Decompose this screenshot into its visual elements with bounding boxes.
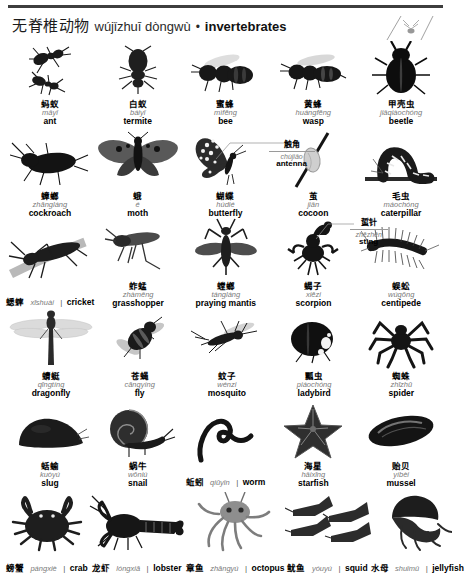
table-row: 螃蟹 pángxiè | crab [6,489,445,575]
entry-english: ant [41,117,59,127]
entry-praying-mantis[interactable]: 螳螂 tángláng praying mantis [182,217,270,309]
entry-separator: | [236,478,238,487]
header-separator: • [196,20,200,34]
entry-english: lobster [153,563,181,573]
entry-english: fly [124,389,154,399]
jellyfish-icon [371,492,464,554]
entry-pinyin: pángxiè [30,564,56,573]
entry-scorpion[interactable]: 蝎子 xiēzi scorpion 蜇针 zhēzhēn sting [270,217,358,309]
praying-mantis-icon [182,217,270,279]
entry-butterfly[interactable]: 蝴蝶 húdié butterfly 触角 chùjiǎo antenna [182,131,270,219]
entry-caption: 水母 shuǐmǔ | jellyfish [371,557,464,575]
callout-chinese: 蜇针 [344,219,394,228]
entry-english: wasp [296,117,331,127]
entry-chinese: 龙虾 [92,563,110,573]
crab-icon [6,492,88,554]
entry-fly[interactable]: 苍蝇 cāngyíng fly [96,307,183,399]
entry-mussel[interactable]: 贻贝 yíbèi mussel [357,401,445,489]
entry-english: beetle [380,117,422,127]
dragonfly-icon [6,307,96,369]
entry-ant[interactable]: 蚂蚁 mǎyǐ ant [6,45,94,127]
termite-icon [94,45,182,97]
entry-octopus[interactable]: 章鱼 zhāngyú | octopus [186,492,285,575]
entry-separator: | [245,564,247,573]
entry-crab[interactable]: 螃蟹 pángxiè | crab [6,492,88,575]
entry-caption: 蛞蝓 kuòyú slug [40,462,60,489]
entry-ladybird[interactable]: 瓢虫 piáochóng ladybird [271,307,358,399]
entry-caterpillar[interactable]: 毛虫 máochóng caterpillar [357,131,445,219]
entry-caption: 蛾 é moth [127,192,148,219]
entry-english: crab [70,563,88,573]
entry-separator: | [147,564,149,573]
beetle-icon [357,41,445,97]
entry-cockroach[interactable]: 蟑螂 zhāngláng cockroach [6,133,94,219]
entry-caption: 蝎子 xiēzi scorpion [296,282,332,309]
entry-wasp[interactable]: 黄蜂 huángfēng wasp [269,45,357,127]
entry-caption: 蟑螂 zhāngláng cockroach [29,192,72,219]
page-header: 无脊椎动物 wújǐzhuī dòngwù • invertebrates [6,8,445,39]
lobster-icon [88,492,186,554]
entry-beetle[interactable]: 甲壳虫 jiǎqiàochóng beetle [357,41,445,127]
callout-chinese: 触角 [264,141,320,150]
entry-english: jellyfish [432,563,464,573]
entry-chinese: 水母 [371,563,389,573]
entry-english: mussel [386,479,415,489]
table-row: 蜻蜓 qīngtíng dragonfly [6,309,445,399]
corner-decoration-icon [381,14,441,40]
entry-jellyfish[interactable]: 水母 shuǐmǔ | jellyfish [371,492,464,575]
entry-bee[interactable]: 蜜蜂 mìfēng bee [182,45,270,127]
entry-english: termite [124,117,152,127]
entry-caption: 蝴蝶 húdié butterfly [208,192,242,219]
entry-caption: 蜜蜂 mìfēng bee [214,100,237,127]
entry-lobster[interactable]: 龙虾 lóngxiā | lobster [88,492,186,575]
entry-english: slug [40,479,60,489]
entry-caption: 瓢虫 piáochóng ladybird [297,372,332,399]
spider-icon [358,307,445,369]
entry-termite[interactable]: 白蚁 báiyǐ termite [94,45,182,127]
entry-pinyin: qiūyǐn [210,478,230,487]
entry-chinese: 蚯蚓 [186,477,204,487]
entry-chinese: 章鱼 [186,563,204,573]
entry-caption: 蚂蚁 mǎyǐ ant [41,100,59,127]
invertebrates-page: 无脊椎动物 wújǐzhuī dòngwù • invertebrates [0,5,451,560]
entry-slug[interactable]: 蛞蝓 kuòyú slug [6,401,94,489]
callout-english: antenna [264,160,320,169]
entry-moth[interactable]: 蛾 é moth [94,131,182,219]
mosquito-icon [183,307,270,369]
callout-rule [269,151,315,152]
entry-pinyin: zhāngyú [210,564,238,573]
table-row: 蟑螂 zhāngláng cockroach [6,127,445,219]
moth-icon [94,131,182,189]
entry-squid[interactable]: 鱿鱼 yóuyú | squid [285,492,371,575]
entry-cricket[interactable]: 蟋蟀 xīshuài | cricket [6,226,94,309]
entry-english: worm [243,477,266,487]
entry-english: squid [345,563,368,573]
entry-caption: 鱿鱼 yóuyú | squid [287,557,367,575]
entry-caption: 蜈蚣 wúgōng centipede [381,282,421,309]
entry-caption: 海星 hǎixīng starfish [298,462,329,489]
entry-snail[interactable]: 蜗牛 wōniú snail [94,401,182,489]
entry-worm[interactable]: 蚯蚓 qiūyǐn | worm [182,410,270,489]
slug-icon [6,401,94,459]
entry-starfish[interactable]: 海星 hǎixīng starfish [269,401,357,489]
octopus-icon [186,492,285,554]
header-english-title: invertebrates [205,19,287,34]
entry-chinese: 螃蟹 [6,563,24,573]
entry-english: octopus [251,563,284,573]
entry-pinyin: yóuyú [312,564,332,573]
entry-mosquito[interactable]: 蚊子 wénzi mosquito [183,307,270,399]
entry-english: bee [214,117,237,127]
fly-icon [96,307,183,369]
callout-rule [350,229,388,230]
entry-chinese: 鱿鱼 [287,563,305,573]
entry-english: cockroach [29,209,72,219]
entry-caption: 白蚁 báiyǐ termite [124,100,152,127]
entry-spider[interactable]: 蜘蛛 zhīzhū spider [358,307,445,399]
table-row: 蚂蚁 mǎyǐ ant [6,39,445,127]
snail-icon [94,401,182,459]
callout-antenna: 触角 chùjiǎo antenna [264,141,320,170]
grasshopper-icon [94,217,182,279]
entry-caption: 贻贝 yíbèi mussel [386,462,415,489]
entry-dragonfly[interactable]: 蜻蜓 qīngtíng dragonfly [6,307,96,399]
entry-grasshopper[interactable]: 蚱蜢 zhàměng grasshopper [94,217,182,309]
